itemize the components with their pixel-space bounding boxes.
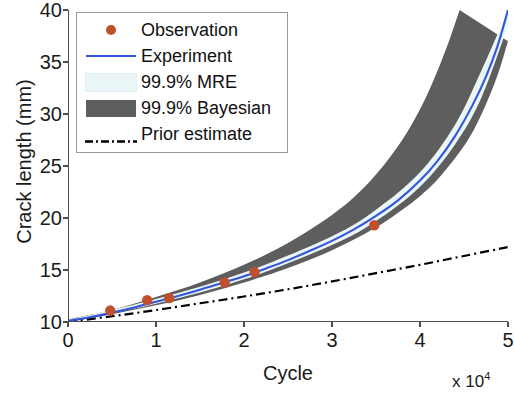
legend-key-patch-icon <box>83 73 139 91</box>
legend-swatch <box>86 55 136 57</box>
x-axis-multiplier: x 104 <box>452 370 490 392</box>
x-axis-tick-label: 5 <box>502 330 513 350</box>
legend-item[interactable]: Prior estimate <box>77 121 287 147</box>
y-axis-tick-mark <box>63 9 68 10</box>
legend-item[interactable]: Observation <box>77 17 287 43</box>
y-axis-tick-mark <box>63 113 68 114</box>
y-axis-tick-mark <box>63 217 68 218</box>
x-axis-tick-label: 3 <box>326 330 337 350</box>
legend-item-label: Experiment <box>141 46 232 67</box>
legend-key-patch-icon <box>83 99 139 117</box>
legend-swatch <box>86 100 136 117</box>
x-axis-multiplier-exponent: 4 <box>484 370 490 382</box>
legend-item[interactable]: 99.9% Bayesian <box>77 95 287 121</box>
legend-swatch <box>106 25 116 35</box>
x-axis-tick-label: 4 <box>414 330 425 350</box>
legend-key-marker-dot-icon <box>83 21 139 39</box>
legend-item-label: 99.9% MRE <box>141 72 237 93</box>
x-axis-tick-mark <box>67 322 68 327</box>
y-axis-tick-mark <box>63 269 68 270</box>
legend-item-label: Observation <box>141 20 238 41</box>
legend-item-label: 99.9% Bayesian <box>141 98 271 119</box>
legend-swatch <box>85 73 137 92</box>
x-axis-tick-mark <box>155 322 156 327</box>
legend-item-label: Prior estimate <box>141 124 252 145</box>
legend-key-solid-line-icon <box>83 47 139 65</box>
x-axis-title: Cycle <box>178 362 398 385</box>
chart-legend: ObservationExperiment99.9% MRE99.9% Baye… <box>76 12 288 153</box>
x-axis-tick-mark <box>419 322 420 327</box>
x-axis-tick-label: 1 <box>150 330 161 350</box>
x-axis-tick-label: 0 <box>62 330 73 350</box>
x-axis-multiplier-text: x 10 <box>452 372 484 391</box>
x-axis-tick-mark <box>331 322 332 327</box>
legend-item[interactable]: Experiment <box>77 43 287 69</box>
legend-key-dashdot-line-icon <box>83 125 139 143</box>
x-axis-tick-mark <box>507 322 508 327</box>
y-axis-tick-mark <box>63 61 68 62</box>
legend-swatch <box>85 131 137 138</box>
x-axis-tick-label: 2 <box>238 330 249 350</box>
legend-item[interactable]: 99.9% MRE <box>77 69 287 95</box>
x-axis-tick-mark <box>243 322 244 327</box>
y-axis-tick-mark <box>63 165 68 166</box>
